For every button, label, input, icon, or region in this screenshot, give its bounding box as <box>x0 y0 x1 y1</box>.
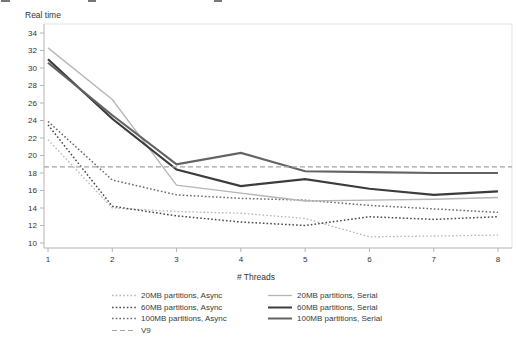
x-axis-ticks: 12345678 <box>46 248 501 264</box>
x-axis-title: # Threads <box>237 272 275 282</box>
cropped-top-artifact-mark <box>214 0 222 2</box>
plot-area <box>44 48 512 237</box>
y-tick-label: 18 <box>28 169 37 178</box>
x-tick-label: 2 <box>110 255 115 264</box>
legend-column-serial: 20MB partitions, Serial60MB partitions, … <box>267 290 382 325</box>
x-tick-label: 8 <box>496 255 501 264</box>
plot-frame <box>44 24 512 248</box>
legend-item: 60MB partitions, Serial <box>267 302 382 314</box>
y-axis-title: Real time <box>25 10 61 20</box>
legend-line-swatch <box>111 304 137 311</box>
cropped-top-artifact-mark <box>1 0 10 2</box>
legend-label: 100MB partitions, Serial <box>297 313 382 325</box>
legend-label: 20MB partitions, Async <box>141 290 222 302</box>
chart-screenshot: Real time 10121416182022242628303234 123… <box>0 0 518 350</box>
y-tick-label: 10 <box>28 239 37 248</box>
x-tick-label: 5 <box>303 255 308 264</box>
legend-line-swatch <box>111 327 137 334</box>
legend-column-async: 20MB partitions, Async60MB partitions, A… <box>111 290 227 336</box>
y-tick-label: 12 <box>28 221 37 230</box>
y-tick-label: 26 <box>28 99 37 108</box>
cropped-top-artifact-mark <box>88 0 96 2</box>
series-line-100mb-partitions-serial <box>48 63 498 173</box>
y-tick-label: 34 <box>28 29 37 38</box>
legend-label: 20MB partitions, Serial <box>297 290 377 302</box>
y-tick-label: 24 <box>28 116 37 125</box>
legend-line-swatch <box>111 292 137 299</box>
series-line-60mb-partitions-serial <box>48 59 498 195</box>
y-tick-label: 30 <box>28 64 37 73</box>
x-tick-label: 1 <box>46 255 51 264</box>
legend-item: 60MB partitions, Async <box>111 302 227 314</box>
legend-item: V9 <box>111 325 227 337</box>
x-tick-label: 7 <box>431 255 436 264</box>
legend-line-swatch <box>111 315 137 322</box>
legend-line-swatch <box>267 315 293 322</box>
legend-item: 100MB partitions, Async <box>111 313 227 325</box>
legend-line-swatch <box>267 304 293 311</box>
legend-item: 20MB partitions, Async <box>111 290 227 302</box>
line-chart: Real time 10121416182022242628303234 123… <box>0 0 518 285</box>
y-tick-label: 32 <box>28 46 37 55</box>
x-tick-label: 4 <box>239 255 244 264</box>
y-tick-label: 16 <box>28 186 37 195</box>
series-line-60mb-partitions-async <box>48 125 498 226</box>
legend-label: 100MB partitions, Async <box>141 313 227 325</box>
legend-label: 60MB partitions, Serial <box>297 302 377 314</box>
y-tick-label: 22 <box>28 134 37 143</box>
x-tick-label: 3 <box>174 255 179 264</box>
legend-line-swatch <box>267 292 293 299</box>
y-tick-label: 14 <box>28 204 37 213</box>
x-tick-label: 6 <box>367 255 372 264</box>
y-axis-ticks: 10121416182022242628303234 <box>28 29 44 248</box>
y-tick-label: 28 <box>28 81 37 90</box>
series-line-20mb-partitions-serial <box>48 48 498 201</box>
legend-label: 60MB partitions, Async <box>141 302 222 314</box>
legend-item: 20MB partitions, Serial <box>267 290 382 302</box>
y-tick-label: 20 <box>28 151 37 160</box>
series-line-20mb-partitions-async <box>48 140 498 237</box>
legend-item: 100MB partitions, Serial <box>267 313 382 325</box>
legend-label: V9 <box>141 325 151 337</box>
